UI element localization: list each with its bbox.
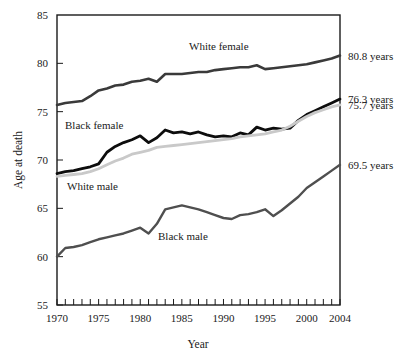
- series-lines: [57, 56, 340, 257]
- series-line-white-female: [57, 56, 340, 105]
- x-tick-label: 1985: [171, 312, 194, 324]
- x-tick-label: 1970: [46, 312, 69, 324]
- plot-frame-group: [57, 15, 340, 305]
- annotation-black-female: Black female: [65, 119, 123, 131]
- y-tick-label: 60: [37, 251, 49, 263]
- end-value-labels: 80.8 years76.3 years75.7 years69.5 years: [348, 50, 393, 171]
- line-chart: 55606570758085 1970197519801985199019952…: [0, 0, 406, 358]
- y-tick-label: 55: [37, 299, 49, 311]
- series-line-black-male: [57, 165, 340, 257]
- x-axis-title: Year: [187, 338, 208, 350]
- end-label-black-male: 69.5 years: [348, 159, 393, 171]
- annotation-white-male: White male: [67, 180, 118, 192]
- x-tick-label: 1975: [88, 312, 111, 324]
- series-line-black-female: [57, 99, 340, 173]
- x-tick-label: 1980: [129, 312, 152, 324]
- x-tick-label: 2004: [329, 312, 352, 324]
- y-tick-label: 80: [37, 57, 49, 69]
- y-axis-ticks: 55606570758085: [37, 9, 63, 311]
- y-tick-label: 65: [37, 202, 49, 214]
- y-tick-label: 70: [37, 154, 49, 166]
- end-label-white-female: 80.8 years: [348, 50, 393, 62]
- x-tick-label: 1995: [254, 312, 277, 324]
- series-line-white-male: [57, 105, 340, 177]
- x-tick-label: 1990: [212, 312, 235, 324]
- end-label-white-male: 75.7 years: [348, 99, 393, 111]
- y-axis-title: Age at death: [12, 131, 25, 189]
- annotation-black-male: Black male: [158, 230, 208, 242]
- annotation-white-female: White female: [189, 40, 249, 52]
- x-tick-label: 2000: [296, 312, 319, 324]
- x-axis-ticks: 19701975198019851990199520002004: [46, 312, 352, 324]
- chart-canvas: 55606570758085 1970197519801985199019952…: [0, 0, 406, 358]
- y-tick-label: 85: [37, 9, 49, 21]
- x-axis-minor-ticks: [57, 299, 340, 305]
- plot-frame: [57, 15, 340, 305]
- y-tick-label: 75: [37, 106, 49, 118]
